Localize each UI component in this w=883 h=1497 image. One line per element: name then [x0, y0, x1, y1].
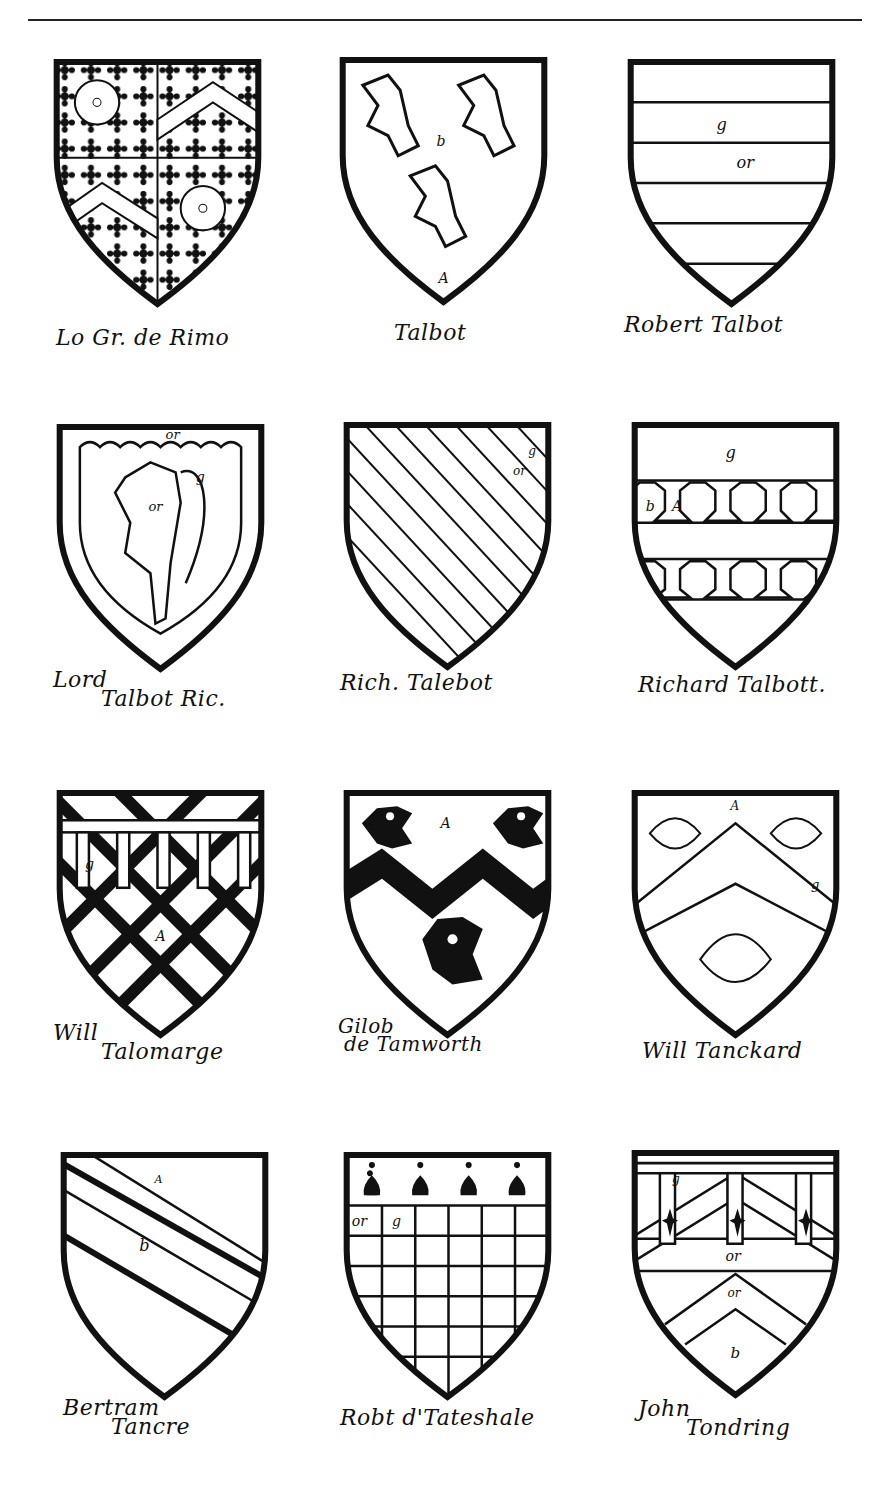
tincture-label: A: [153, 1173, 162, 1186]
tincture-label: g: [392, 1213, 401, 1229]
tincture-label: b: [139, 1236, 149, 1255]
shield-caption: Bertram Tancre: [63, 1395, 303, 1439]
shield-entry: g or or b John Tondring: [628, 1148, 868, 1488]
shield-caption: Lo Gr. de Rimo: [56, 325, 296, 350]
shield-embattled-bars-icon: g b A: [628, 420, 843, 672]
shield-caption: John Tondring: [638, 1396, 878, 1440]
tincture-label: g: [85, 856, 94, 872]
tincture-label: g: [716, 115, 726, 134]
shield-chevron-label-icon: g or or b: [628, 1148, 843, 1400]
tincture-label: g: [528, 444, 536, 458]
shield-lion-bordure-icon: or or g: [53, 422, 268, 674]
shield-bendlets-icon: A b: [57, 1150, 272, 1402]
shield-fretty-icon: g A: [53, 788, 268, 1040]
shield-entry: or or g Lord Talbot Ric.: [53, 422, 293, 762]
shield-entry: A Gilob de Tamworth: [340, 788, 580, 1128]
tincture-label: b: [646, 498, 655, 514]
shield-barry-icon: g or: [624, 57, 839, 309]
shield-caption: Robert Talbot: [624, 312, 864, 337]
shield-quarterly-icon: [50, 57, 265, 309]
shield-caption: Rich. Talebot: [340, 670, 580, 695]
shield-caption: Will Tanckard: [642, 1038, 882, 1063]
shield-entry: or g Robt d'Tateshale: [340, 1150, 580, 1490]
ermine-spot-icon: [364, 1162, 526, 1195]
shield-entry: g or Robert Talbot: [624, 57, 864, 397]
tincture-label: A: [436, 270, 448, 286]
shield-chevron-escallops-icon: A g: [628, 788, 843, 1040]
shield-entry: A b Bertram Tancre: [57, 1150, 297, 1490]
shield-entry: b A Talbot: [336, 55, 576, 395]
shield-caption: Lord Talbot Ric.: [53, 667, 293, 711]
shield-lions-icon: b A: [336, 55, 551, 307]
shield-bendy-icon: g or: [340, 420, 555, 672]
shield-entry: Lo Gr. de Rimo: [50, 57, 290, 397]
shield-caption: Richard Talbott.: [638, 672, 878, 697]
tincture-label: g: [672, 1172, 680, 1186]
shield-entry: g b A Richard Talbott.: [628, 420, 868, 760]
shield-caption: Gilob de Tamworth: [338, 1014, 578, 1056]
tincture-label: or: [352, 1213, 368, 1229]
tincture-label: b: [436, 133, 445, 149]
tincture-label: or: [725, 1248, 741, 1264]
shield-caption: Robt d'Tateshale: [340, 1405, 580, 1430]
header-rule: [28, 19, 862, 21]
shield-caption: Talbot: [394, 320, 634, 345]
tincture-label: or: [727, 1286, 741, 1300]
tincture-label: b: [730, 1344, 740, 1362]
tincture-label: g: [811, 877, 819, 892]
tincture-label: or: [513, 464, 527, 478]
shield-caption: Will Talomarge: [53, 1020, 293, 1064]
shield-checky-ermine-icon: or g: [340, 1150, 555, 1402]
tincture-label: A: [670, 498, 682, 514]
shield-entry: A g Will Tanckard: [628, 788, 868, 1128]
tincture-label: A: [729, 799, 739, 813]
shield-dancetty-cocks-icon: A: [340, 788, 555, 1040]
tincture-label: g: [725, 443, 735, 462]
tincture-label: A: [438, 815, 450, 831]
shield-entry: g or Rich. Talebot: [340, 420, 580, 760]
tincture-label: g: [196, 469, 205, 485]
tincture-label: or: [148, 499, 163, 514]
tincture-label: or: [737, 153, 756, 172]
tincture-label: A: [153, 928, 165, 944]
shield-entry: g A Will Talomarge: [53, 788, 293, 1128]
